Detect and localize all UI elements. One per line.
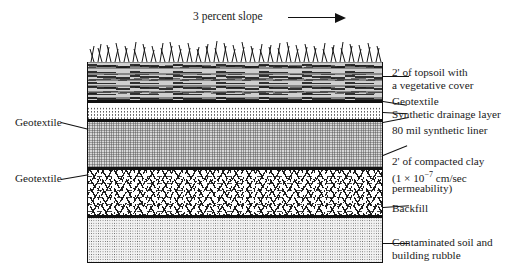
slope-annotation: 3 percent slope [193, 9, 363, 27]
baseline [87, 262, 383, 264]
label-drainage-layer: Synthetic drainage layer [392, 108, 501, 121]
label-compacted-clay: 2' of compacted clay [392, 155, 484, 168]
topsoil-texture [87, 62, 383, 100]
label-backfill: Backfill [392, 202, 428, 215]
label-synthetic-liner: 80 mil synthetic liner [392, 124, 487, 137]
perm-exponent: −7 [424, 170, 433, 179]
label-contaminated-line2: building rubble [392, 249, 461, 262]
label-geotextile-left-upper: Geotextile [15, 116, 62, 129]
label-topsoil-line2: a vegetative cover [392, 79, 473, 92]
cross-section-diagram: 3 percent slope [0, 0, 515, 276]
layer-stack [87, 40, 383, 263]
leader-left-geotextile-1 [61, 122, 88, 130]
leader-left-geotextile-2 [61, 174, 89, 180]
slope-label: 3 percent slope [193, 9, 263, 23]
layer-vegetative-cover [87, 40, 383, 62]
layer-contaminated-soil [87, 218, 383, 262]
left-edge [87, 62, 88, 262]
right-edge [382, 62, 383, 262]
liner-texture [87, 122, 383, 167]
label-contaminated-line1: Contaminated soil and [392, 236, 493, 249]
backfill-texture [87, 170, 383, 215]
slope-arrow-shaft [288, 17, 336, 18]
label-geotextile-left-lower: Geotextile [15, 172, 62, 185]
layer-topsoil [87, 62, 383, 100]
label-permeability-word: permeability) [392, 182, 452, 195]
layer-backfill [87, 170, 383, 215]
layer-synthetic-liner [87, 122, 383, 167]
grass-icon [87, 40, 383, 62]
contaminated-texture [87, 218, 383, 262]
label-topsoil-line1: 2' of topsoil with [392, 66, 468, 79]
drainage-texture [87, 107, 383, 119]
label-geotextile-right: Geotextile [392, 95, 439, 108]
layer-synthetic-drainage [87, 107, 383, 119]
right-arrow-icon [335, 13, 346, 23]
